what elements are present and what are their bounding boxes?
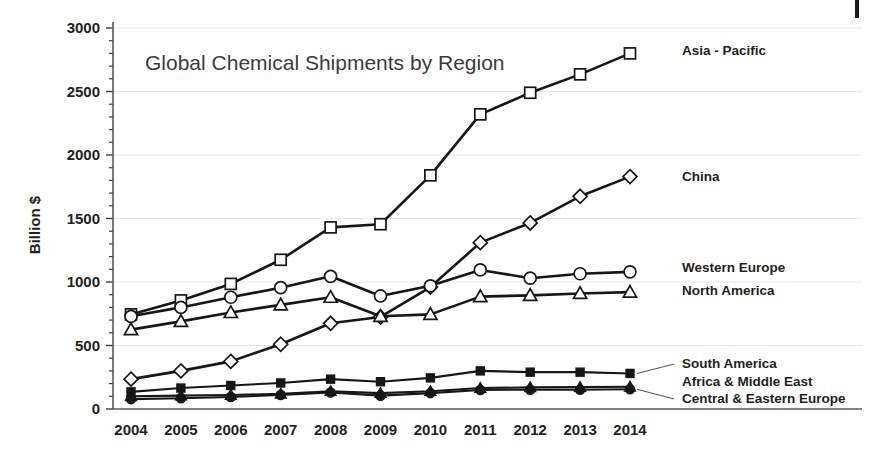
data-point-marker [574,268,586,280]
x-axis-tick-label: 2004 [114,421,148,438]
x-axis-tick-label: 2013 [563,421,596,438]
y-axis-tick-label: 3000 [67,19,100,36]
legend-item-western-europe: Western Europe [682,260,786,275]
data-point-marker [327,375,335,383]
legend-label: China [682,169,720,184]
data-point-marker [475,109,486,120]
y-axis-tick-label: 2500 [67,83,100,100]
x-axis-tick-label: 2006 [214,421,247,438]
data-point-marker [576,385,585,394]
x-axis-tick-label: 2007 [264,421,297,438]
x-axis-tick-label: 2012 [514,421,547,438]
data-point-marker [325,270,337,282]
data-point-marker [326,388,335,397]
data-point-marker [525,87,536,98]
y-axis-tick-label: 1500 [67,210,100,227]
data-point-marker [375,219,386,230]
data-point-marker [276,390,285,399]
data-point-marker [225,278,236,289]
data-point-marker [575,69,586,80]
data-point-marker [375,290,387,302]
data-point-marker [476,385,485,394]
x-axis-tick-labels: 2004200520062007200820092010201120122013… [114,421,647,438]
data-point-marker [474,264,486,276]
legend-label: Western Europe [682,260,786,275]
data-point-marker [526,385,535,394]
data-point-marker [376,391,385,400]
line-chart: 050010001500200025003000 200420052006200… [0,0,879,457]
data-point-marker [425,170,436,181]
y-axis-tick-label: 500 [75,337,100,354]
data-point-marker [426,374,434,382]
data-point-marker [426,389,435,398]
data-point-marker [275,282,287,294]
legend-label: Asia - Pacific [682,43,767,58]
x-axis-tick-label: 2010 [414,421,447,438]
data-point-marker [176,394,185,403]
data-point-marker [275,254,286,265]
data-point-marker [576,368,584,376]
y-axis-tick-label: 0 [92,400,100,417]
data-point-marker [424,280,436,292]
data-point-marker [524,272,536,284]
data-point-marker [526,368,534,376]
legend-item-north-america: North America [682,283,775,298]
data-point-marker [175,301,187,313]
chart-page: 050010001500200025003000 200420052006200… [0,0,879,457]
legend-item-africa-middle-east: Africa & Middle East [682,374,813,389]
x-axis-tick-label: 2009 [364,421,397,438]
data-point-marker [225,291,237,303]
scan-artifact-mark [855,0,859,18]
x-axis-tick-label: 2011 [464,421,497,438]
chart-title: Global Chemical Shipments by Region [145,51,505,74]
data-point-marker [125,310,137,322]
data-point-marker [226,392,235,401]
legend-item-asia-pacific: Asia - Pacific [682,43,767,58]
data-point-marker [126,394,135,403]
data-point-marker [277,379,285,387]
x-axis-tick-label: 2014 [613,421,647,438]
x-axis-tick-label: 2005 [164,421,197,438]
legend-label: Central & Eastern Europe [682,391,846,406]
data-point-marker [325,222,336,233]
data-point-marker [624,266,636,278]
y-axis-title: Billion $ [26,195,43,254]
data-point-marker [625,385,634,394]
data-point-marker [625,48,636,59]
y-axis-tick-label: 1000 [67,273,100,290]
data-point-marker [626,369,634,377]
data-point-marker [377,378,385,386]
legend-label: North America [682,283,775,298]
legend-item-china: China [682,169,720,184]
legend-label: South America [682,356,777,371]
legend-label: Africa & Middle East [682,374,813,389]
x-axis-tick-label: 2008 [314,421,347,438]
data-point-marker [476,367,484,375]
y-axis-tick-label: 2000 [67,146,100,163]
